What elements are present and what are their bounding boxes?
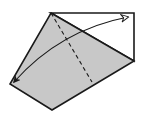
origami-diagram — [0, 0, 142, 119]
